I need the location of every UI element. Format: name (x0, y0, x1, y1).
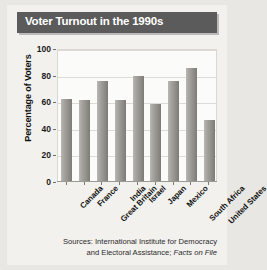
bar-france (79, 100, 90, 181)
y-tick-label: 60 (25, 98, 51, 107)
y-tick-mark (53, 129, 56, 130)
x-tick-mark (119, 182, 120, 185)
y-tick-mark (53, 155, 56, 156)
source-line-2: and Electoral Assistance; Facts on File (19, 248, 217, 259)
x-tick-mark (101, 182, 102, 185)
y-tick-label: 20 (25, 151, 51, 160)
y-tick-mark (53, 182, 56, 183)
x-tick-mark (66, 182, 67, 185)
x-tick-mark (208, 182, 209, 185)
gridline (58, 50, 216, 51)
bar-great-britain (97, 81, 108, 181)
x-tick-mark (84, 182, 85, 185)
bar-canada (61, 99, 72, 181)
y-tick-label: 0 (25, 178, 51, 187)
y-tick-label: 80 (25, 72, 51, 81)
source-note: Sources: International Institute for Dem… (19, 237, 217, 258)
source-publication: Facts on File (174, 248, 217, 257)
y-tick-mark (53, 76, 56, 77)
x-tick-mark (155, 182, 156, 185)
bar-mexico (168, 81, 179, 181)
x-tick-label-mexico: Mexico (184, 184, 209, 209)
x-tick-mark (190, 182, 191, 185)
bar-israel (133, 76, 144, 181)
chart-figure: Voter Turnout in the 1990s Percentage of… (7, 5, 227, 265)
y-tick-label: 100 (25, 45, 51, 54)
bar-united-states (204, 120, 215, 181)
x-tick-mark (137, 182, 138, 185)
page-title: Voter Turnout in the 1990s (25, 15, 163, 27)
bar-south-africa (186, 68, 197, 181)
y-tick-mark (53, 102, 56, 103)
chart-title-bar: Voter Turnout in the 1990s (17, 12, 217, 33)
plot-area (57, 49, 217, 182)
y-tick-label: 40 (25, 125, 51, 134)
source-line-2-prefix: and Electoral Assistance; (87, 248, 174, 257)
bar-japan (150, 104, 161, 181)
source-line-1: Sources: International Institute for Dem… (19, 237, 217, 248)
x-tick-mark (173, 182, 174, 185)
bar-india (115, 100, 126, 181)
y-tick-mark (53, 49, 56, 50)
